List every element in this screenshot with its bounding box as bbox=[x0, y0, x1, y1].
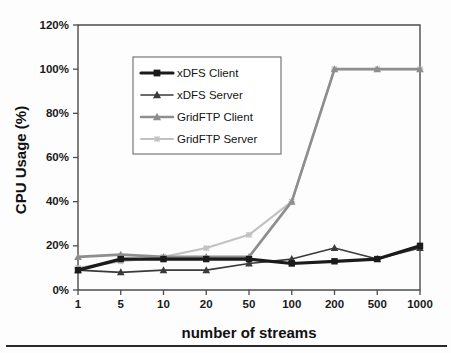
legend-item-label: xDFS Server bbox=[177, 89, 243, 101]
y-tick-label: 20% bbox=[46, 239, 69, 251]
y-tick-label: 40% bbox=[46, 195, 69, 207]
y-tick-label: 120% bbox=[40, 19, 69, 31]
y-tick-label: 80% bbox=[46, 107, 69, 119]
data-point-marker bbox=[417, 243, 423, 249]
chart-figure: 0%20%40%60%80%100%120% 15102050100200500… bbox=[0, 0, 451, 353]
data-point-marker bbox=[331, 258, 337, 264]
data-point-marker bbox=[246, 232, 253, 238]
y-tick-label: 100% bbox=[40, 63, 69, 75]
legend-marker-icon bbox=[154, 136, 161, 142]
x-tick-label: 100 bbox=[282, 298, 301, 310]
data-point-marker bbox=[203, 256, 209, 262]
data-point-marker bbox=[246, 256, 252, 262]
legend-item-label: GridFTP Server bbox=[177, 133, 257, 145]
y-axis-title: CPU Usage (%) bbox=[12, 106, 29, 214]
x-tick-label: 1000 bbox=[407, 298, 433, 310]
bottom-divider-rule bbox=[6, 345, 447, 347]
y-tick-label: 60% bbox=[46, 151, 69, 163]
data-point-marker bbox=[160, 256, 166, 262]
legend-item-label: GridFTP Client bbox=[177, 111, 254, 123]
data-point-marker bbox=[75, 267, 81, 273]
x-tick-label: 10 bbox=[157, 298, 170, 310]
legend-item-label: xDFS Client bbox=[177, 67, 239, 79]
data-point-marker bbox=[289, 260, 295, 266]
x-tick-label: 50 bbox=[243, 298, 256, 310]
data-point-marker bbox=[203, 245, 210, 251]
chart-legend: xDFS ClientxDFS ServerGridFTP ClientGrid… bbox=[133, 57, 281, 154]
data-point-marker bbox=[118, 256, 124, 262]
data-point-marker bbox=[374, 256, 380, 262]
x-tick-label: 5 bbox=[118, 298, 125, 310]
y-tick-label: 0% bbox=[52, 284, 69, 296]
x-tick-label: 20 bbox=[200, 298, 213, 310]
x-tick-label: 1 bbox=[75, 298, 82, 310]
x-tick-label: 200 bbox=[325, 298, 344, 310]
x-axis-title: number of streams bbox=[181, 324, 316, 341]
legend-marker-icon bbox=[154, 70, 161, 77]
cpu-usage-line-chart: 0%20%40%60%80%100%120% 15102050100200500… bbox=[0, 0, 451, 353]
x-tick-label: 500 bbox=[368, 298, 387, 310]
